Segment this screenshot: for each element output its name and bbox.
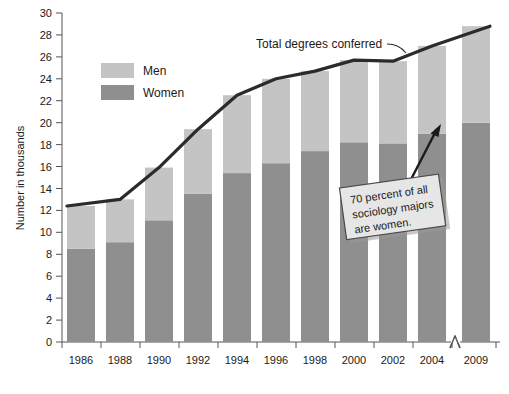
y-tick-label: 2	[46, 314, 52, 326]
bar-group-1988[interactable]	[106, 199, 134, 342]
bar-segment-women	[379, 143, 407, 342]
x-tick-label: 2002	[381, 354, 405, 366]
x-tick-label: 2009	[464, 354, 488, 366]
y-tick-label: 18	[40, 139, 52, 151]
bar-segment-men	[262, 79, 290, 163]
y-tick-label: 16	[40, 161, 52, 173]
stacked-bar-chart: 30 28 26 24 22 20 18 16 14 12 10 8 6 4 2…	[0, 0, 509, 394]
x-tick-label: 1990	[147, 354, 171, 366]
x-tick-label: 2004	[420, 354, 444, 366]
bar-segment-women	[223, 173, 251, 342]
bar-segment-men	[106, 199, 134, 242]
y-tick-label: 8	[46, 248, 52, 260]
bar-segment-men	[462, 26, 490, 123]
bar-group-1996[interactable]	[262, 79, 290, 342]
bar-segment-men	[67, 206, 95, 249]
bar-segment-men	[418, 46, 446, 134]
bar-segment-women	[184, 194, 212, 342]
y-tick-label: 0	[46, 336, 52, 348]
y-tick-label: 12	[40, 204, 52, 216]
x-tick-label: 2000	[342, 354, 366, 366]
bar-segment-women	[145, 220, 173, 342]
legend-swatch-women	[101, 85, 134, 100]
bar-group-1994[interactable]	[223, 95, 251, 342]
bar-group-1986[interactable]	[67, 206, 95, 342]
y-axis-title: Number in thousands	[14, 125, 26, 230]
y-tick-label: 26	[40, 51, 52, 63]
x-tick-label: 1992	[186, 354, 210, 366]
total-degrees-label: Total degrees conferred	[256, 37, 382, 51]
bar-segment-women	[462, 123, 490, 342]
bar-group-1998[interactable]	[301, 71, 329, 342]
x-tick-label: 1996	[264, 354, 288, 366]
bar-group-1992[interactable]	[184, 129, 212, 342]
chart-container: 30 28 26 24 22 20 18 16 14 12 10 8 6 4 2…	[0, 0, 509, 394]
legend-label-women: Women	[143, 86, 184, 100]
y-tick-label: 14	[40, 183, 52, 195]
x-tick-label: 1998	[303, 354, 327, 366]
bar-segment-women	[301, 151, 329, 342]
x-axis-tick-labels: 1986 1988 1990 1992 1994 1996 1998 2000 …	[69, 354, 488, 366]
bar-group-1990[interactable]	[145, 168, 173, 342]
y-tick-label: 20	[40, 117, 52, 129]
y-tick-label: 22	[40, 95, 52, 107]
bar-segment-women	[418, 134, 446, 342]
y-tick-label: 10	[40, 226, 52, 238]
bar-segment-men	[301, 71, 329, 151]
bar-segment-men	[379, 61, 407, 143]
y-tick-label: 6	[46, 270, 52, 282]
y-tick-label: 4	[46, 292, 52, 304]
legend-swatch-men	[101, 63, 134, 78]
y-tick-label: 30	[40, 7, 52, 19]
x-tick-label: 1986	[69, 354, 93, 366]
x-tick-label: 1988	[108, 354, 132, 366]
legend-label-men: Men	[143, 64, 166, 78]
bar-group-2009[interactable]	[462, 26, 490, 342]
y-tick-label: 28	[40, 29, 52, 41]
bar-segment-women	[262, 163, 290, 342]
bar-segment-women	[67, 249, 95, 342]
bar-segment-men	[223, 95, 251, 173]
bar-segment-men	[340, 60, 368, 142]
y-tick-label: 24	[40, 73, 52, 85]
x-tick-label: 1994	[225, 354, 249, 366]
bar-segment-women	[106, 242, 134, 342]
